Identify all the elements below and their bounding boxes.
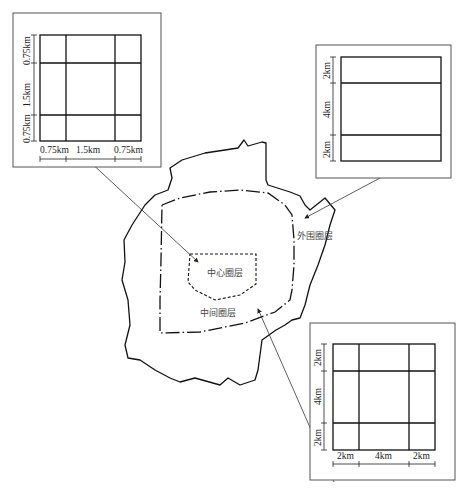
leader-center bbox=[88, 160, 198, 262]
middle-grid-v-bot: 2km bbox=[313, 429, 323, 447]
center-grid-v-mid: 1.5km bbox=[22, 82, 32, 107]
center-grid-v-bot: 0.75km bbox=[22, 114, 32, 143]
outer-grid-v-bot: 2km bbox=[322, 141, 332, 159]
center-zone-label: 中心圈层 bbox=[207, 267, 243, 278]
outer-grid-v-mid: 4km bbox=[322, 101, 332, 119]
middle-zone-label: 中间圈层 bbox=[200, 307, 236, 318]
center-grid-v-top: 0.75km bbox=[22, 36, 32, 65]
outer-zone-label: 外围圈层 bbox=[297, 230, 333, 241]
center-grid-h-mid: 1.5km bbox=[76, 145, 101, 155]
middle-grid-v-top: 2km bbox=[313, 349, 323, 367]
middle-grid-v-mid: 4km bbox=[313, 388, 323, 406]
middle-grid-h-right: 2km bbox=[413, 451, 431, 461]
center-grid-panel: 0.75km 1.5km 0.75km 0.75km 1.5km 0.75km bbox=[13, 13, 161, 167]
center-grid-h-left: 0.75km bbox=[40, 145, 69, 155]
middle-grid-panel: 2km 4km 2km 2km 4km 2km bbox=[310, 323, 455, 480]
outer-grid-panel: 2km 4km 2km bbox=[316, 45, 451, 178]
outer-grid-v-top: 2km bbox=[322, 62, 332, 80]
leader-outer bbox=[305, 178, 380, 218]
zoning-diagram: 中心圈层 中间圈层 外围圈层 0.75km 1.5km 0.75km 0.75k… bbox=[0, 0, 465, 492]
middle-grid-h-left: 2km bbox=[337, 451, 355, 461]
city-boundary bbox=[122, 140, 335, 385]
center-grid-h-right: 0.75km bbox=[114, 145, 143, 155]
middle-grid-h-mid: 4km bbox=[375, 451, 393, 461]
